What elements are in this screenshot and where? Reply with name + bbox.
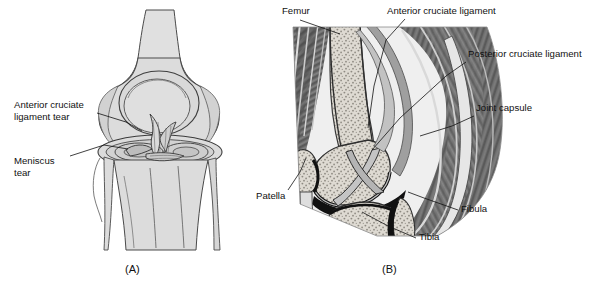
label-acl-tear: Anterior cruciateligament tear (14, 99, 84, 123)
label-fibula: Fibula (461, 203, 487, 215)
label-anterior-cruciate-ligament: Anterior cruciate ligament (387, 5, 496, 17)
label-tibia: Tibia (419, 231, 439, 243)
label-femur: Femur (282, 5, 310, 17)
caption-panel-b: (B) (382, 263, 397, 275)
caption-panel-a: (A) (125, 263, 140, 275)
figure-knee-anatomy: Anterior cruciateligament tear Meniscust… (0, 0, 602, 288)
label-patella: Patella (256, 190, 285, 202)
figure-canvas (0, 0, 602, 288)
label-posterior-cruciate-ligament: Posterior cruciate ligament (468, 48, 582, 60)
label-joint-capsule: Joint capsule (476, 102, 532, 114)
panel-a-illustration (70, 10, 222, 250)
label-meniscus-tear: Meniscustear (14, 155, 55, 179)
